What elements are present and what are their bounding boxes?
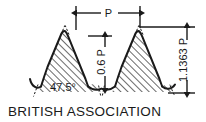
flank-angle-annotation: 47.5° [50,81,76,93]
root-fillet-far-left [30,79,41,88]
diagram-caption: BRITISH ASSOCIATION [8,104,161,119]
thread-profile-drawing: P 0.6 P 1.1363 P 47.5° BRITISH ASSO [0,0,206,122]
flank-angle-label: 47.5° [50,81,76,93]
thread-tooth-right [112,31,173,92]
pitch-dimension: P [76,6,140,30]
thread-profile-diagram: P 0.6 P 1.1363 P 47.5° BRITISH ASSO [0,0,206,122]
depth-label: 0.6 P [95,49,107,75]
tooth-right-hatch [112,31,173,92]
height-label: 1.1363 P [177,38,189,82]
depth-dimension: 0.6 P [88,36,112,88]
pitch-label: P [105,7,112,19]
